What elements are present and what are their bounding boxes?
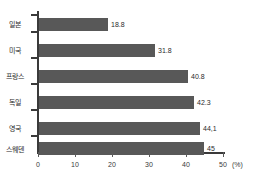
- x-axis-tick: [223, 152, 224, 157]
- bar-1[interactable]: [39, 44, 155, 57]
- y-axis-tick: [31, 135, 37, 137]
- y-axis-tick: [31, 14, 37, 16]
- bar-4[interactable]: [39, 122, 200, 135]
- category-label-0: 일본: [0, 20, 30, 29]
- category-label-2: 프랑스: [0, 72, 30, 81]
- value-label-3: 42.3: [197, 98, 211, 107]
- x-axis-tick: [112, 152, 113, 157]
- category-label-1: 미국: [0, 46, 30, 55]
- bar-0[interactable]: [39, 18, 108, 31]
- y-axis-tick: [31, 109, 37, 111]
- x-tick-label-4: 40: [174, 160, 198, 169]
- x-tick-label-0: 0: [26, 160, 50, 169]
- x-axis-tick: [75, 152, 76, 157]
- x-tick-label-3: 30: [137, 160, 161, 169]
- x-axis-tick: [38, 152, 39, 157]
- bar-5[interactable]: [39, 142, 204, 155]
- y-axis-tick: [31, 57, 37, 59]
- bar-chart: 일본 미국 프랑스 독일 영국 스웨덴 18.8 31.8 40.8 42.3 …: [0, 0, 266, 179]
- bar-2[interactable]: [39, 70, 188, 83]
- category-label-5: 스웨덴: [0, 145, 30, 154]
- value-label-5: 45: [207, 144, 215, 153]
- x-tick-label-2: 20: [100, 160, 124, 169]
- y-axis-tick: [31, 31, 37, 33]
- category-label-4: 영국: [0, 124, 30, 133]
- value-label-4: 44,1: [203, 124, 217, 133]
- value-label-0: 18.8: [111, 20, 125, 29]
- category-label-3: 독일: [0, 98, 30, 107]
- x-tick-label-1: 10: [63, 160, 87, 169]
- x-axis-tick: [186, 152, 187, 157]
- x-axis-unit-label: (%): [232, 160, 243, 169]
- bar-3[interactable]: [39, 96, 194, 109]
- value-label-1: 31.8: [158, 46, 172, 55]
- x-axis-tick: [149, 152, 150, 157]
- value-label-2: 40.8: [191, 72, 205, 81]
- y-axis-tick: [31, 83, 37, 85]
